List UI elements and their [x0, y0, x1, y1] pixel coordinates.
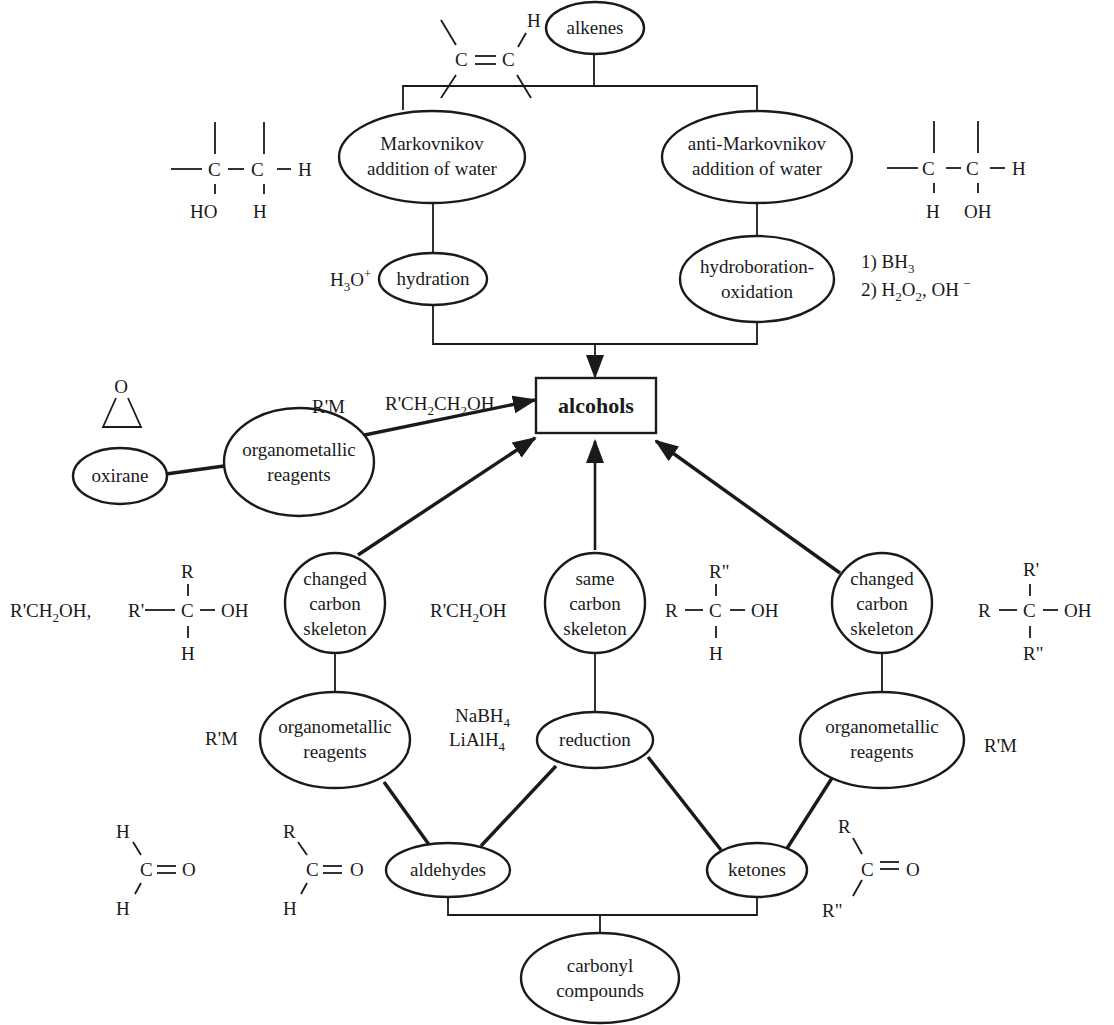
svg-text:R": R": [1023, 643, 1043, 664]
node-changed-left-line2: carbon: [309, 593, 361, 614]
svg-text:R: R: [283, 821, 296, 842]
node-alcohols[interactable]: alcohols: [536, 378, 656, 433]
svg-text:O: O: [350, 859, 364, 880]
node-oxirane[interactable]: oxirane: [73, 448, 167, 504]
reagent-h2o2-oh: 2) H2O2, OH−: [861, 276, 970, 304]
svg-text:H: H: [527, 10, 541, 31]
svg-text:C: C: [251, 159, 264, 180]
reagent-lialh4: LiAlH4: [449, 729, 506, 754]
node-reduction[interactable]: reduction: [537, 712, 653, 768]
node-alkenes-label: alkenes: [567, 17, 624, 38]
node-carbonyl-line2: compounds: [556, 980, 644, 1001]
svg-text:H: H: [926, 201, 940, 222]
node-same-line1: same: [575, 568, 614, 589]
structure-formaldehyde: H C O H: [116, 821, 196, 919]
svg-text:R': R': [128, 600, 144, 621]
svg-text:C: C: [181, 600, 194, 621]
reagent-rm-right: R'M: [984, 735, 1017, 756]
connector-organometallic-aldehydes: [384, 782, 430, 846]
svg-text:O: O: [114, 376, 128, 397]
structure-ketone: R C O R": [822, 816, 920, 921]
node-same-carbon-skeleton[interactable]: same carbon skeleton: [545, 553, 645, 653]
node-changed-left-line1: changed: [303, 568, 367, 589]
connector-organometallic-ketones: [786, 778, 832, 850]
node-changed-carbon-skeleton-left[interactable]: changed carbon skeleton: [285, 553, 385, 653]
svg-text:OH: OH: [751, 600, 779, 621]
node-anti-markovnikov-line2: addition of water: [692, 158, 822, 179]
structure-aldehyde: R C O H: [283, 821, 364, 919]
svg-text:H: H: [709, 643, 723, 664]
svg-text:C: C: [966, 158, 979, 179]
node-markovnikov-addition[interactable]: Markovnikov addition of water: [339, 111, 525, 203]
svg-text:H: H: [283, 898, 297, 919]
node-organometallic-right-line2: reagents: [850, 741, 913, 762]
svg-text:R: R: [665, 600, 678, 621]
svg-text:R: R: [181, 561, 194, 582]
node-organometallic-right-line1: organometallic: [825, 716, 939, 737]
svg-text:C: C: [140, 859, 153, 880]
svg-text:C: C: [306, 859, 319, 880]
node-changed-right-line2: carbon: [856, 593, 908, 614]
node-organometallic-right[interactable]: organometallic reagents: [800, 692, 964, 788]
node-changed-left-line3: skeleton: [303, 618, 367, 639]
alcohol-synthesis-diagram: alkenes Markovnikov addition of water an…: [0, 0, 1114, 1025]
node-carbonyl-compounds[interactable]: carbonyl compounds: [521, 933, 679, 1023]
node-hydration[interactable]: hydration: [379, 253, 487, 305]
node-organometallic-top-line1: organometallic: [242, 439, 356, 460]
node-ketones[interactable]: ketones: [707, 843, 807, 897]
svg-text:H: H: [298, 159, 312, 180]
reagent-hydronium: H3O+: [330, 266, 371, 294]
node-same-line3: skeleton: [563, 618, 627, 639]
svg-text:R": R": [709, 561, 729, 582]
structure-anti-markovnikov-product: C C H H OH: [887, 121, 1026, 222]
svg-text:C: C: [709, 600, 722, 621]
node-same-line2: carbon: [569, 593, 621, 614]
svg-text:OH: OH: [964, 201, 992, 222]
node-anti-markovnikov-addition[interactable]: anti-Markovnikov addition of water: [662, 111, 852, 203]
svg-text:R': R': [1023, 559, 1039, 580]
svg-text:R: R: [838, 816, 851, 837]
node-anti-markovnikov-line1: anti-Markovnikov: [688, 133, 827, 154]
svg-text:H: H: [1012, 158, 1026, 179]
arrow-changed-left-alcohols: [358, 438, 535, 555]
svg-text:OH: OH: [1064, 600, 1092, 621]
node-carbonyl-line1: carbonyl: [567, 955, 633, 976]
connector-alkenes-anti-markovnikov: [594, 86, 757, 110]
node-organometallic-left-line2: reagents: [303, 741, 366, 762]
node-changed-right-line3: skeleton: [850, 618, 914, 639]
node-alkenes[interactable]: alkenes: [546, 2, 644, 54]
svg-text:H: H: [116, 898, 130, 919]
svg-text:O: O: [182, 859, 196, 880]
connector-oxirane-organometallic: [166, 466, 224, 474]
reagent-bh3: 1) BH3: [861, 251, 914, 276]
svg-text:R": R": [822, 900, 842, 921]
svg-text:H: H: [116, 821, 130, 842]
node-organometallic-left-line1: organometallic: [278, 716, 392, 737]
connector-aldehydes-ketones: [448, 896, 757, 915]
reagent-rm-left: R'M: [205, 728, 238, 749]
arrow-changed-right-alcohols: [656, 441, 840, 573]
node-hydration-label: hydration: [397, 268, 470, 289]
svg-text:C: C: [455, 49, 468, 70]
svg-text:O: O: [906, 859, 920, 880]
reagent-nabh4: NaBH4: [455, 705, 511, 730]
node-changed-right-line1: changed: [850, 568, 914, 589]
node-changed-carbon-skeleton-right[interactable]: changed carbon skeleton: [832, 553, 932, 653]
connector-reduction-aldehydes: [481, 766, 556, 846]
svg-text:C: C: [861, 859, 874, 880]
svg-text:H: H: [253, 201, 267, 222]
product-primary-center: R'CH2OH: [430, 600, 507, 625]
node-ketones-label: ketones: [728, 859, 786, 880]
node-aldehydes-label: aldehydes: [410, 859, 486, 880]
reagent-rm-oxirane: R'M: [312, 396, 345, 417]
structure-secondary-alcohol-left: R' C R H OH: [128, 561, 249, 664]
node-hydroboration-line2: oxidation: [721, 281, 793, 302]
node-organometallic-left[interactable]: organometallic reagents: [260, 692, 410, 788]
node-organometallic-oxirane[interactable]: organometallic reagents: [224, 408, 374, 516]
node-reduction-label: reduction: [559, 729, 631, 750]
node-oxirane-label: oxirane: [92, 465, 149, 486]
structure-markovnikov-product: C C H HO H: [171, 122, 312, 222]
node-alcohols-label: alcohols: [558, 393, 634, 418]
node-aldehydes[interactable]: aldehydes: [386, 843, 510, 897]
node-hydroboration-oxidation[interactable]: hydroboration- oxidation: [680, 236, 834, 322]
